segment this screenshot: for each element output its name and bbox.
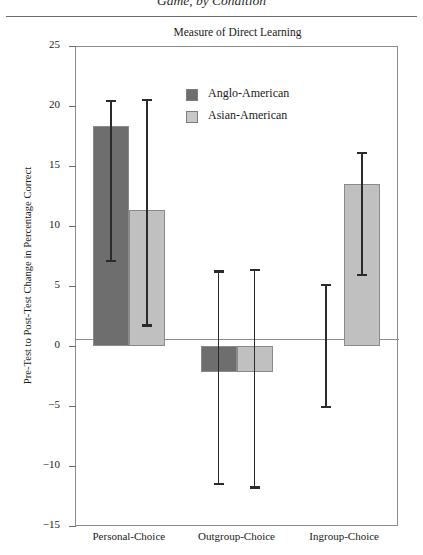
legend-swatch-icon-anglo <box>186 89 198 101</box>
x-axis-label-personal-choice: Personal-Choice <box>69 530 189 542</box>
error-bar-line <box>254 269 256 486</box>
error-bar-cap <box>214 270 224 272</box>
error-bar-cap <box>142 99 152 101</box>
error-bar-line <box>325 284 327 406</box>
caption-divider <box>6 16 417 17</box>
error-bar-cap <box>357 152 367 154</box>
x-axis-label-ingroup-choice: Ingroup-Choice <box>284 530 404 542</box>
y-axis-tick <box>69 406 76 407</box>
y-axis-tick <box>69 166 76 167</box>
y-axis-title: Pre-Test to Post-Test Change in Percenta… <box>22 146 33 406</box>
y-axis-tick <box>69 526 76 527</box>
y-axis-tick <box>69 46 76 47</box>
caption-text: Game, by Condition <box>0 0 423 9</box>
y-axis-tick <box>69 346 76 347</box>
y-axis-tick <box>69 286 76 287</box>
error-bar-line <box>146 99 148 325</box>
x-axis-label-outgroup-choice: Outgroup-Choice <box>177 530 297 542</box>
y-axis-tick-label: −15 <box>22 518 60 530</box>
error-bar-cap <box>106 100 116 102</box>
error-bar-cap <box>106 260 116 262</box>
legend-label-anglo: Anglo-American <box>208 86 289 101</box>
legend-swatch-icon-asian <box>186 111 198 123</box>
error-bar-cap <box>214 483 224 485</box>
y-axis-tick-label: 20 <box>22 98 60 110</box>
y-axis-tick <box>69 106 76 107</box>
chart-title: Measure of Direct Learning <box>75 26 400 38</box>
error-bar-cap <box>357 274 367 276</box>
error-bar-cap <box>321 406 331 408</box>
error-bar-line <box>361 152 363 274</box>
y-axis-tick-label: −10 <box>22 458 60 470</box>
error-bar-cap <box>250 269 260 271</box>
error-bar-cap <box>321 284 331 286</box>
error-bar-line <box>110 100 112 260</box>
legend-label-asian: Asian-American <box>208 108 287 123</box>
figure-caption: Game, by Condition <box>0 0 423 22</box>
error-bar-line <box>218 270 220 482</box>
y-axis-tick <box>69 226 76 227</box>
y-axis-tick-label: 25 <box>22 38 60 50</box>
y-axis-tick <box>69 466 76 467</box>
error-bar-cap <box>250 486 260 488</box>
error-bar-cap <box>142 324 152 326</box>
